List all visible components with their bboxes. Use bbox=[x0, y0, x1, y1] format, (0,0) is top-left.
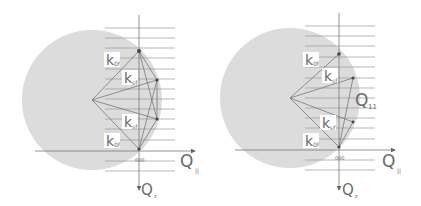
q-z-subscript: z bbox=[154, 193, 157, 199]
left-panel: k 0f k sf k sf k 0f 000 Q || Q z bbox=[22, 15, 199, 199]
k-bottom-subscript: 0f bbox=[313, 141, 320, 148]
k-top-subscript: 0f bbox=[114, 60, 121, 67]
k-upper-subscript: sf bbox=[132, 79, 138, 86]
k-bottom-subscript: 0f bbox=[114, 141, 121, 148]
origin-label: 000 bbox=[335, 155, 345, 161]
reflection-point bbox=[351, 76, 354, 79]
q-z-label: Q bbox=[141, 181, 153, 199]
q-parallel-subscript: || bbox=[195, 167, 199, 175]
origin-label: 000 bbox=[135, 157, 145, 163]
reflection-point bbox=[137, 49, 141, 53]
reflection-point bbox=[155, 78, 158, 81]
reflection-point bbox=[337, 145, 340, 148]
reflection-point bbox=[352, 121, 355, 124]
reflection-point bbox=[137, 147, 140, 150]
k-lower-subscript: sf bbox=[132, 123, 138, 130]
reflection-point bbox=[337, 52, 341, 56]
k-lower-subscript: sf bbox=[330, 124, 336, 131]
k-top-subscript: 0f bbox=[313, 60, 320, 67]
k-upper-subscript: sf bbox=[332, 77, 338, 84]
q-vector-subscript: 11 bbox=[368, 103, 377, 111]
reflection-point bbox=[155, 117, 158, 120]
q-z-label: Q bbox=[342, 181, 354, 199]
q-z-subscript: z bbox=[355, 193, 358, 199]
q-parallel-label: Q bbox=[382, 151, 395, 171]
q-parallel-label: Q bbox=[180, 151, 193, 171]
q-parallel-subscript: || bbox=[397, 167, 401, 175]
q-vector-label: Q bbox=[355, 90, 368, 110]
right-panel: k 0f k sf Q 11 k sf k 0f 000 Q || Q z bbox=[220, 13, 401, 199]
diagram-canvas: k 0f k sf k sf k 0f 000 Q || Q z bbox=[0, 0, 421, 206]
